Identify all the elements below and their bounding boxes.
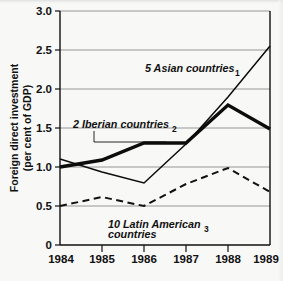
y-tickmarks <box>55 11 60 245</box>
line-chart: 3.0 2.5 2.0 1.5 1.0 0.5 0 1984 1985 1986… <box>0 0 283 281</box>
footnote-marker-latin-american: 3 <box>204 224 209 234</box>
x-tick-labels: 1984 1985 1986 1987 1988 1989 <box>48 253 279 265</box>
chart-figure: 3.0 2.5 2.0 1.5 1.0 0.5 0 1984 1985 1986… <box>0 0 283 281</box>
y-tick-label-2-0: 2.0 <box>36 83 52 95</box>
y-tick-label-0-5: 0.5 <box>36 200 53 212</box>
series-annotation-asian: 5 Asian countries 1 <box>145 62 240 78</box>
x-tick-label-1984: 1984 <box>48 253 74 265</box>
y-axis-title-line-1: Foreign direct investment <box>8 63 20 192</box>
y-tick-label-1-5: 1.5 <box>36 122 53 134</box>
footnote-marker-asian: 1 <box>235 68 240 78</box>
gridlines <box>60 11 270 206</box>
x-tick-label-1987: 1987 <box>173 253 199 265</box>
y-tick-labels: 3.0 2.5 2.0 1.5 1.0 0.5 0 <box>36 5 53 251</box>
series-line-latin-american <box>60 168 270 206</box>
leader-line-iberian <box>94 131 166 142</box>
x-tick-label-1985: 1985 <box>89 253 115 265</box>
y-tick-label-1-0: 1.0 <box>36 161 52 173</box>
series-label-latin-american-line-2: countries <box>108 228 157 240</box>
series-annotation-iberian: 2 Iberian countries 2 <box>72 118 177 142</box>
y-tick-label-0: 0 <box>46 239 52 251</box>
series-annotation-latin-american: 10 Latin American 3 countries <box>108 218 209 240</box>
x-tick-label-1989: 1989 <box>253 253 279 265</box>
series-line-iberian <box>60 105 270 167</box>
y-axis-title-line-2: (per cent of GDP) <box>21 85 33 171</box>
footnote-marker-iberian: 2 <box>172 124 177 134</box>
x-tick-label-1988: 1988 <box>215 253 241 265</box>
x-tickmarks <box>102 245 228 252</box>
y-tick-label-2-5: 2.5 <box>36 44 53 56</box>
series-label-asian: 5 Asian countries <box>145 62 235 74</box>
series-label-iberian: 2 Iberian countries <box>72 118 169 130</box>
y-axis-title: Foreign direct investment (per cent of G… <box>8 63 33 192</box>
y-tick-label-3-0: 3.0 <box>36 5 52 17</box>
x-tick-label-1986: 1986 <box>131 253 157 265</box>
